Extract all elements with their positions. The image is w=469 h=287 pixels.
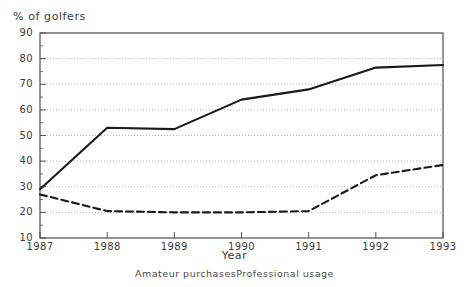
y-tick-label: 70 [3, 78, 33, 89]
y-tick-label: 20 [3, 206, 33, 217]
series-line-1 [40, 165, 443, 212]
axis-ticks-group [40, 33, 443, 238]
series-lines-group [40, 65, 443, 212]
y-tick-label: 50 [3, 130, 33, 141]
x-axis-title: Year [0, 249, 469, 262]
y-tick-label: 40 [3, 155, 33, 166]
legend-item-professional-usage: Professional usage [236, 268, 334, 279]
y-tick-label: 80 [3, 53, 33, 64]
plot-frame [40, 33, 443, 238]
legend: Amateur purchasesProfessional usage [0, 268, 469, 279]
y-tick-label: 60 [3, 104, 33, 115]
legend-item-amateur-purchases: Amateur purchases [135, 268, 236, 279]
series-line-0 [40, 65, 443, 189]
y-tick-label: 90 [3, 27, 33, 38]
y-tick-label: 30 [3, 181, 33, 192]
line-chart: % of golfers 102030405060708090 19871988… [0, 0, 469, 287]
gridlines-group [41, 59, 442, 213]
